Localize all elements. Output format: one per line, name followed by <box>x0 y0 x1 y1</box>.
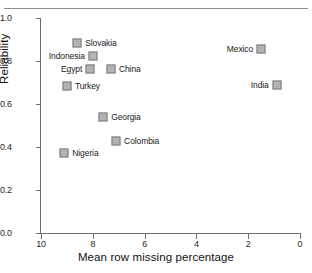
plot-area: SlovakiaIndonesiaEgyptChinaTurkeyMexicoI… <box>41 18 300 233</box>
data-point-label: China <box>119 64 141 74</box>
data-point-label: Nigeria <box>72 148 98 158</box>
x-axis-tick-label: 2 <box>246 239 251 249</box>
y-axis-tick-label: 1.0 <box>0 13 35 23</box>
x-axis-tick-label: 8 <box>90 239 95 249</box>
x-axis-tick-label: 10 <box>36 239 46 249</box>
data-point-label: Mexico <box>227 44 253 54</box>
running-head-text <box>96 0 174 5</box>
data-point-marker[interactable] <box>99 112 108 121</box>
data-point-label: India <box>251 80 269 90</box>
data-point-marker[interactable] <box>272 80 281 89</box>
data-point-marker[interactable] <box>60 149 69 158</box>
x-axis-line <box>40 233 301 234</box>
data-point-label: Turkey <box>75 81 100 91</box>
y-axis-tick-label: 0.8 <box>0 56 35 66</box>
x-axis-title: Mean row missing percentage <box>0 251 312 263</box>
y-axis-tick-label: 0.4 <box>0 142 35 152</box>
data-point-marker[interactable] <box>73 38 82 47</box>
scatter-plot-figure: Reliability Mean row missing percentage … <box>0 0 312 273</box>
data-point-marker[interactable] <box>257 45 266 54</box>
data-point-label: Colombia <box>124 136 159 146</box>
data-point-marker[interactable] <box>86 64 95 73</box>
data-point-marker[interactable] <box>62 81 71 90</box>
y-axis-tick-label: 0.0 <box>0 228 35 238</box>
data-point-marker[interactable] <box>106 64 115 73</box>
data-point-label: Indonesia <box>49 51 85 61</box>
data-point-label: Egypt <box>61 64 82 74</box>
x-axis-tick-label: 6 <box>142 239 147 249</box>
data-point-label: Georgia <box>111 112 141 122</box>
data-point-marker[interactable] <box>112 136 121 145</box>
y-axis-tick-label: 0.6 <box>0 99 35 109</box>
data-point-label: Slovakia <box>85 38 116 48</box>
data-point-marker[interactable] <box>88 51 97 60</box>
header-rule <box>4 8 308 9</box>
x-axis-tick-label: 4 <box>194 239 199 249</box>
x-axis-tick-label: 0 <box>298 239 303 249</box>
y-axis-tick-label: 0.2 <box>0 185 35 195</box>
